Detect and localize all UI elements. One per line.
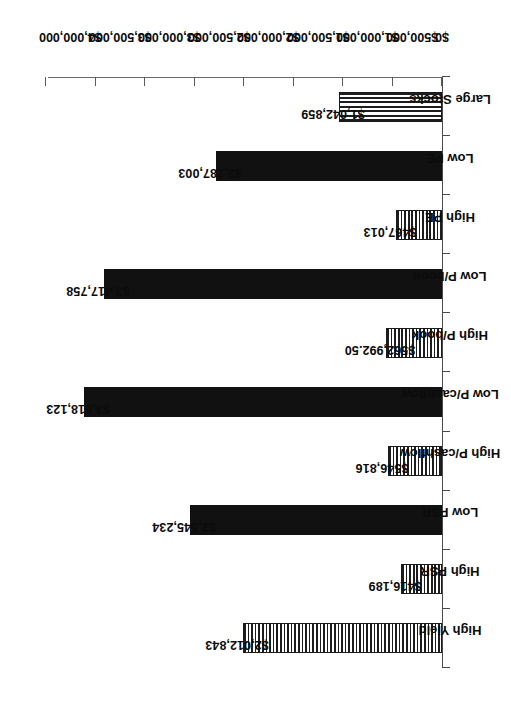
bar-value-label: $3,417,758 bbox=[65, 284, 129, 298]
bar-value-label: $2,287,003 bbox=[177, 166, 241, 180]
value-tick bbox=[391, 77, 392, 86]
bar-value-label: $2,545,234 bbox=[152, 520, 216, 534]
bar-value-label: $3,618,123 bbox=[46, 402, 110, 416]
category-label-slot: High PSR bbox=[444, 550, 503, 609]
bar-value-label: $562,992.50 bbox=[344, 343, 415, 357]
bar-slot: $3,417,758 bbox=[46, 254, 442, 313]
category-label: High PE bbox=[425, 210, 475, 225]
category-label-slot: Low PE bbox=[444, 136, 503, 195]
value-tick bbox=[243, 77, 244, 86]
value-tick bbox=[94, 77, 95, 86]
bar[interactable]: $3,417,758 bbox=[103, 269, 441, 299]
bar-value-label: $2,012,843 bbox=[204, 638, 268, 652]
value-tick bbox=[441, 77, 442, 86]
bar-series: $2,012,843$416,189$2,545,234$546,816$3,6… bbox=[46, 77, 442, 668]
category-label: Low P/cashflow bbox=[401, 387, 499, 402]
bar-slot: $2,287,003 bbox=[46, 136, 442, 195]
category-axis-labels: High YieldHigh PSRLow PSRHigh P/cashflow… bbox=[444, 77, 503, 668]
scanned-page: $2,012,843$416,189$2,545,234$546,816$3,6… bbox=[0, 0, 511, 710]
category-label-slot: High Yield bbox=[444, 609, 503, 668]
category-label-slot: High PE bbox=[444, 195, 503, 254]
category-label-slot: High P/book bbox=[444, 313, 503, 372]
bar-slot: $2,012,843 bbox=[46, 609, 442, 668]
category-label-slot: Low P/cashflow bbox=[444, 373, 503, 432]
value-tick-label: $4,000,000 bbox=[39, 30, 102, 44]
category-label-slot: Low PSR bbox=[444, 491, 503, 550]
category-label: High PSR bbox=[420, 564, 479, 579]
bar[interactable]: $2,287,003 bbox=[215, 151, 441, 181]
bar[interactable]: $2,012,843 bbox=[242, 623, 441, 653]
bar-value-label: $416,189 bbox=[368, 579, 421, 593]
category-label: Low P/book bbox=[413, 269, 486, 284]
bar-value-label: $467,013 bbox=[363, 225, 416, 239]
category-label-slot: Large Stocks bbox=[444, 77, 503, 136]
bar-slot: $562,992.50 bbox=[46, 313, 442, 372]
chart-stage: $2,012,843$416,189$2,545,234$546,816$3,6… bbox=[35, 48, 503, 668]
bar-slot: $3,618,123 bbox=[46, 373, 442, 432]
category-label: Low PE bbox=[426, 151, 473, 166]
bar-slot: $546,816 bbox=[46, 432, 442, 491]
value-tick bbox=[342, 77, 343, 86]
bar-slot: $416,189 bbox=[46, 550, 442, 609]
bar[interactable]: $2,545,234 bbox=[190, 505, 442, 535]
category-label: Large Stocks bbox=[409, 92, 491, 107]
category-label-slot: High P/cashflow bbox=[444, 432, 503, 491]
value-tick bbox=[144, 77, 145, 86]
category-label: Low PSR bbox=[421, 505, 477, 520]
category-label: High Yield bbox=[418, 623, 481, 638]
value-tick bbox=[193, 77, 194, 86]
bar[interactable]: $3,618,123 bbox=[83, 387, 441, 417]
value-tick bbox=[292, 77, 293, 86]
value-tick bbox=[45, 77, 46, 86]
category-label: High P/book bbox=[412, 328, 488, 343]
bar-chart: $2,012,843$416,189$2,545,234$546,816$3,6… bbox=[35, 48, 503, 668]
bar-slot: $2,545,234 bbox=[46, 491, 442, 550]
bar-slot: $467,013 bbox=[46, 195, 442, 254]
value-axis-ticks: $0$500,000$1,000,000$1,500,000$2,000,000… bbox=[46, 48, 442, 78]
bar-value-label: $546,816 bbox=[355, 461, 408, 475]
category-label: High P/cashflow bbox=[399, 446, 499, 461]
bar-value-label: $1,042,859 bbox=[300, 107, 364, 121]
category-label-slot: Low P/book bbox=[444, 254, 503, 313]
